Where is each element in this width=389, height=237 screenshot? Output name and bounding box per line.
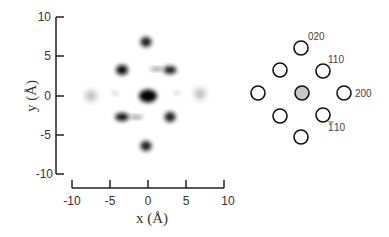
x-tick-labels: -10 -5 0 5 10: [63, 194, 235, 208]
peak-far-right: [195, 89, 205, 99]
reflection-200: [337, 86, 351, 100]
density-map: [86, 37, 205, 151]
y-axis: [56, 17, 64, 174]
svg-text:10: 10: [334, 122, 346, 133]
svg-text:10: 10: [221, 194, 235, 208]
streak-lower: [129, 115, 143, 119]
label-200: 200: [355, 88, 372, 99]
svg-text:0: 0: [145, 194, 152, 208]
svg-text:-10: -10: [36, 167, 54, 181]
svg-text:10: 10: [38, 10, 52, 24]
peak-lower-right: [165, 112, 176, 122]
svg-text:-10: -10: [63, 194, 81, 208]
svg-text:5: 5: [183, 194, 190, 208]
x-axis: [72, 180, 224, 188]
reflection-left: [251, 86, 265, 100]
svg-text:-5: -5: [105, 194, 116, 208]
reflection-020: [294, 41, 308, 55]
reflection-upper-left: [273, 63, 287, 77]
peak-lower-left: [115, 113, 129, 121]
svg-text:5: 5: [44, 49, 51, 63]
y-axis-title: y (Å): [23, 80, 40, 112]
label-110: 110: [328, 54, 344, 65]
reflection-1bar10: [316, 108, 330, 122]
svg-text:0: 0: [44, 89, 51, 103]
peak-bottom: [141, 141, 152, 151]
reflection-bottom: [294, 130, 308, 144]
x-axis-title: x (Å): [136, 210, 168, 227]
reflection-lower-left: [273, 109, 287, 123]
peak-top: [141, 37, 152, 47]
streak-upper: [150, 67, 164, 71]
peak-upper-right: [164, 66, 177, 74]
peak-center: [139, 90, 157, 103]
peak-far-left: [86, 91, 96, 101]
svg-text:-5: -5: [40, 128, 51, 142]
reflection-center: [295, 86, 309, 100]
peak-upper-left: [116, 65, 128, 75]
reflection-110: [316, 64, 330, 78]
label-1bar10: 1 10: [328, 122, 346, 133]
label-020: 020: [308, 31, 325, 42]
figure: 10 5 0 -5 -10 y (Å) -10 -5 0 5 10 x (Å) …: [0, 0, 389, 237]
